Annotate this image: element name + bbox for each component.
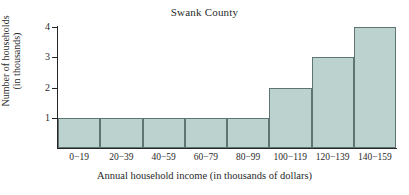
x-tick-label: 60−79: [185, 151, 227, 163]
histogram-bar: [100, 118, 142, 148]
x-tick-label: 20−39: [100, 151, 142, 163]
x-tick-label: 0−19: [58, 151, 100, 163]
x-tick-label: 40−59: [143, 151, 185, 163]
y-axis-title-line-2: (in thousands): [11, 0, 22, 126]
x-axis-title: Annual household income (in thousands of…: [0, 170, 409, 181]
x-tick-label: 140−159: [354, 151, 396, 163]
histogram-bar: [269, 88, 311, 149]
histogram-bar: [354, 27, 396, 148]
histogram-bar: [312, 57, 354, 148]
histogram-bar: [143, 118, 185, 148]
plot-area: [58, 27, 396, 148]
histogram-figure: Swank County 1234 0−1920−3940−5960−7980−…: [0, 0, 409, 195]
x-tick-label: 120−139: [312, 151, 354, 163]
histogram-bar: [185, 118, 227, 148]
chart-title: Swank County: [0, 6, 409, 18]
x-tick-label: 100−119: [269, 151, 311, 163]
x-axis-line: [57, 148, 397, 149]
y-tick-label: 2: [36, 83, 50, 93]
y-tick-label: 4: [36, 22, 50, 32]
y-tick-label: 3: [36, 52, 50, 62]
histogram-bar: [58, 118, 100, 148]
y-axis-title: Number of households (in thousands): [0, 0, 22, 126]
x-tick-label: 80−99: [227, 151, 269, 163]
y-axis-title-line-1: Number of households: [0, 0, 11, 126]
y-tick-label: 1: [36, 113, 50, 123]
histogram-bar: [227, 118, 269, 148]
